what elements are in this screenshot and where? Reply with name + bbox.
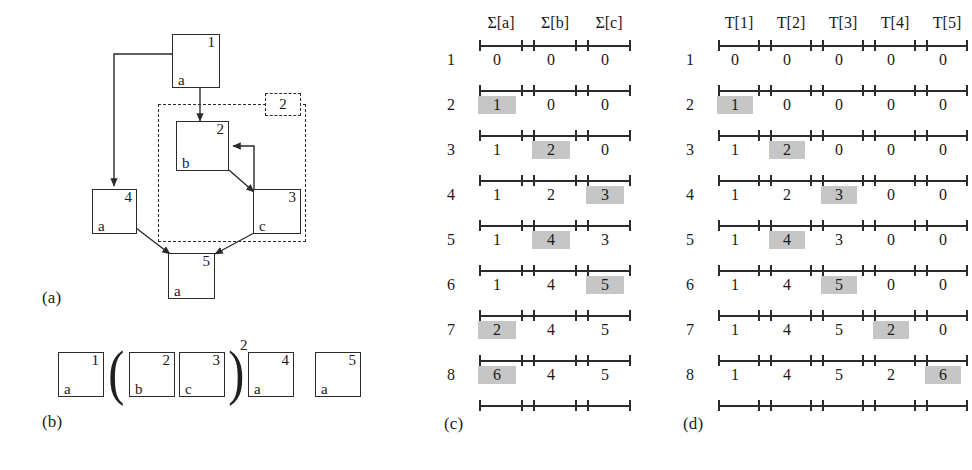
ruler-tick: [479, 130, 481, 141]
cell-c-r5-c2: 4: [532, 231, 570, 249]
cell-d-r5-c1: 1: [717, 231, 753, 249]
ruler-tick: [810, 400, 812, 411]
ruler-tick: [926, 220, 928, 231]
cell-d-r1-c2: 0: [769, 51, 805, 69]
cell-d-r3-c3: 0: [821, 141, 857, 159]
ruler-tick: [521, 130, 523, 141]
ruler-tick: [629, 310, 631, 321]
cell-c-r6-c2: 4: [532, 276, 570, 294]
ruler-bar: [479, 225, 631, 227]
cell-d-r5-c5: 0: [925, 231, 961, 249]
ruler-tick: [718, 40, 720, 51]
node-2-number: 2: [217, 121, 225, 138]
ruler-tick: [479, 40, 481, 51]
expr-node-2-letter: b: [135, 381, 143, 398]
ruler-tick: [718, 130, 720, 141]
ruler-tick: [966, 355, 968, 366]
cell-d-r2-c1: 1: [717, 96, 753, 114]
ruler-tick: [810, 175, 812, 186]
ruler-tick: [966, 310, 968, 321]
ruler-tick: [718, 265, 720, 276]
panel-c-label: (c): [444, 414, 463, 434]
ruler-tick: [810, 130, 812, 141]
ruler-tick: [587, 220, 589, 231]
ruler-tick: [718, 355, 720, 366]
expr-node-3[interactable]: 3 c: [179, 352, 225, 397]
ruler-tick: [926, 355, 928, 366]
ruler-tick: [966, 400, 968, 411]
row-separator-d-7: [718, 355, 968, 366]
expr-node-5[interactable]: 5 a: [315, 352, 361, 397]
ruler-tick: [587, 265, 589, 276]
ruler-tick: [479, 85, 481, 96]
cell-d-r4-c3: 3: [821, 186, 857, 204]
graph-node-5[interactable]: 5 a: [168, 253, 215, 299]
ruler-tick: [629, 130, 631, 141]
row-separator-c-2: [479, 130, 631, 141]
graph-node-2[interactable]: 2 b: [176, 121, 229, 171]
ruler-tick: [758, 400, 760, 411]
ruler-tick: [521, 40, 523, 51]
cell-d-r7-c5: 0: [925, 321, 961, 339]
expr-node-2-number: 2: [163, 352, 171, 369]
ruler-tick: [521, 400, 523, 411]
cell-c-r4-c1: 1: [478, 186, 516, 204]
row-separator-c-6: [479, 310, 631, 321]
cell-d-r7-c4: 2: [873, 321, 909, 339]
cell-d-r4-c5: 0: [925, 186, 961, 204]
ruler-tick: [479, 220, 481, 231]
row-separator-d-3: [718, 175, 968, 186]
ruler-tick: [862, 40, 864, 51]
ruler-tick: [533, 220, 535, 231]
ruler-tick: [874, 265, 876, 276]
row-separator-d-2: [718, 130, 968, 141]
row-label-d-1: 1: [683, 51, 697, 69]
ruler-tick: [966, 265, 968, 276]
cell-d-r1-c4: 0: [873, 51, 909, 69]
cell-d-r2-c3: 0: [821, 96, 857, 114]
ruler-tick: [810, 85, 812, 96]
graph-node-4[interactable]: 4 a: [92, 189, 137, 234]
expr-node-4[interactable]: 4 a: [248, 352, 294, 397]
expr-node-5-number: 5: [349, 352, 357, 369]
ruler-tick: [587, 85, 589, 96]
column-header-d-3: T[3]: [817, 14, 869, 32]
ruler-tick: [914, 175, 916, 186]
cell-d-r6-c5: 0: [925, 276, 961, 294]
ruler-tick: [575, 220, 577, 231]
ruler-tick: [874, 40, 876, 51]
ruler-tick: [914, 130, 916, 141]
cell-c-r7-c2: 4: [532, 321, 570, 339]
ruler-tick: [575, 310, 577, 321]
graph-node-3[interactable]: 3 c: [253, 189, 301, 234]
ruler-tick: [758, 85, 760, 96]
ruler-tick: [914, 220, 916, 231]
expr-node-1[interactable]: 1 a: [58, 352, 104, 397]
row-separator-c-3: [479, 175, 631, 186]
cell-d-r6-c1: 1: [717, 276, 753, 294]
cell-c-r4-c2: 2: [532, 186, 570, 204]
ruler-tick: [587, 40, 589, 51]
graph-node-1[interactable]: 1 a: [172, 34, 220, 88]
ruler-tick: [822, 400, 824, 411]
ruler-tick: [874, 355, 876, 366]
cell-d-r7-c3: 5: [821, 321, 857, 339]
ruler-tick: [862, 400, 864, 411]
cell-d-r6-c2: 4: [769, 276, 805, 294]
expr-node-2[interactable]: 2 b: [129, 352, 175, 397]
cell-c-r1-c2: 0: [532, 51, 570, 69]
ruler-tick: [926, 130, 928, 141]
node-2-letter: b: [182, 155, 190, 172]
cell-d-r6-c3: 5: [821, 276, 857, 294]
row-separator-c-5: [479, 265, 631, 276]
cell-d-r7-c1: 1: [717, 321, 753, 339]
column-header-c-2: Σ[b]: [528, 14, 582, 32]
group-tag-label: 2: [279, 96, 287, 113]
ruler-tick: [629, 400, 631, 411]
ruler-tick: [874, 130, 876, 141]
ruler-bar: [718, 315, 968, 317]
ruler-tick: [521, 175, 523, 186]
ruler-tick: [479, 265, 481, 276]
ruler-tick: [874, 310, 876, 321]
